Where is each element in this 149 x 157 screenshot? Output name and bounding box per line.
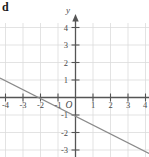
- x-tick-label: 1: [91, 100, 95, 110]
- y-tick-label: 3: [64, 40, 68, 50]
- y-tick-label: 2: [64, 58, 68, 68]
- y-tick-label: -3: [61, 145, 68, 155]
- y-tick-labels: -3 -2 -1 1 2 3 4: [61, 23, 69, 156]
- y-axis-arrowhead: [72, 14, 78, 22]
- y-tick-label: -1: [61, 110, 68, 120]
- x-tick-label: -3: [19, 100, 26, 110]
- x-tick-label: 4: [143, 100, 148, 110]
- x-tick-label: 2: [108, 100, 112, 110]
- x-tick-label: 3: [126, 100, 130, 110]
- y-axis-label: y: [65, 5, 70, 15]
- origin-label: O: [66, 100, 73, 110]
- coordinate-plane: y O -4 -3 -2 -1 1 2 3 4 -3 -2 -1 1 2 3 4: [0, 0, 149, 157]
- x-tick-label: -4: [2, 100, 10, 110]
- plotted-line: [0, 78, 149, 154]
- y-tick-label: 1: [64, 75, 68, 85]
- x-tick-label: -2: [37, 100, 44, 110]
- graph-figure: d: [0, 0, 149, 157]
- y-tick-label: -2: [61, 128, 68, 138]
- x-tick-label: -1: [54, 100, 61, 110]
